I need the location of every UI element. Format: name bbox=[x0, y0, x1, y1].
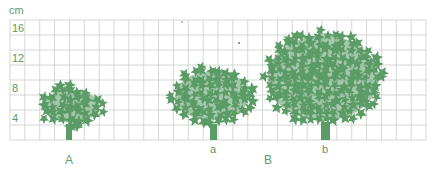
tree-a bbox=[165, 62, 259, 140]
tree-b-label: b bbox=[322, 143, 328, 155]
tree-a-canopy bbox=[165, 62, 259, 129]
y-tick-4: 4 bbox=[12, 112, 18, 124]
leaf-star bbox=[39, 114, 49, 124]
leaf-star bbox=[98, 107, 108, 117]
print-speck bbox=[181, 21, 183, 23]
print-speck bbox=[238, 42, 240, 44]
y-tick-8: 8 bbox=[12, 82, 18, 94]
tree-b-trunk bbox=[321, 122, 330, 140]
tree-size-grid-diagram: cm 16 12 8 4 a b A B bbox=[0, 0, 433, 172]
group-B-label: B bbox=[264, 153, 272, 167]
y-tick-12: 12 bbox=[12, 52, 24, 64]
group-A-label: A bbox=[65, 153, 73, 167]
unit-label: cm bbox=[9, 4, 24, 16]
y-tick-16: 16 bbox=[12, 22, 24, 34]
tree-b bbox=[259, 25, 389, 140]
tree-a-trunk bbox=[210, 124, 217, 140]
tree-A bbox=[38, 79, 109, 140]
tree-b-canopy bbox=[259, 25, 389, 126]
tree-a-label: a bbox=[210, 143, 217, 155]
y-axis-ticks: 16 12 8 4 bbox=[12, 22, 24, 124]
